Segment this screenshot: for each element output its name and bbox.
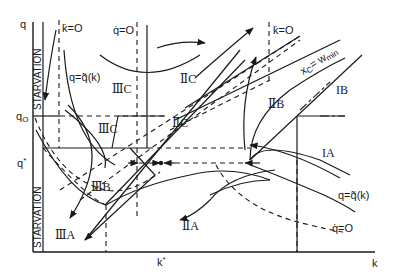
y-mark-q0: qO	[16, 110, 28, 124]
qdot-zero-top-label: q̇=O	[113, 24, 135, 36]
y-mark-qstar: q*	[17, 156, 26, 169]
kdot-zero-right-label: k̇=O	[273, 24, 294, 36]
xc-wmin-label: xC= wmin	[298, 44, 341, 78]
region-IIC-top: ⅡC	[180, 72, 196, 86]
region-IIIA: ⅢA	[55, 228, 76, 242]
x-mark-kstar: k*	[157, 255, 166, 268]
region-IIIC-top: ⅢC	[112, 82, 132, 96]
kdot-zero-left-label: k̇=O	[62, 22, 83, 34]
y-axis-label: q	[20, 18, 26, 30]
region-IIB: ⅡB	[268, 97, 284, 111]
region-IIC-mid: ⅡC	[172, 116, 188, 130]
region-IIIB: ⅢB	[91, 180, 111, 194]
phase-diagram: q k qO q* k* STARVATION STARVATION	[0, 0, 393, 277]
region-IIIC-mid: ⅢC	[98, 122, 118, 136]
q-tilde-right-label: q=q̃(k)	[338, 189, 370, 201]
region-IIA: ⅡA	[182, 219, 199, 233]
starvation-label-lower: STARVATION	[32, 187, 43, 249]
vertical-lines	[59, 20, 297, 252]
steady-state-point	[159, 161, 163, 165]
x-axis-label: k	[372, 257, 378, 269]
qdot-zero-bottom-label: q̇=O	[332, 222, 354, 234]
region-IA: IA	[322, 146, 335, 160]
q-tilde-left-label: q=q̃(k)	[69, 71, 101, 83]
svg-text:xC= wmin: xC= wmin	[298, 44, 341, 78]
starvation-label-upper: STARVATION	[32, 49, 43, 111]
region-IB: IB	[336, 83, 348, 97]
